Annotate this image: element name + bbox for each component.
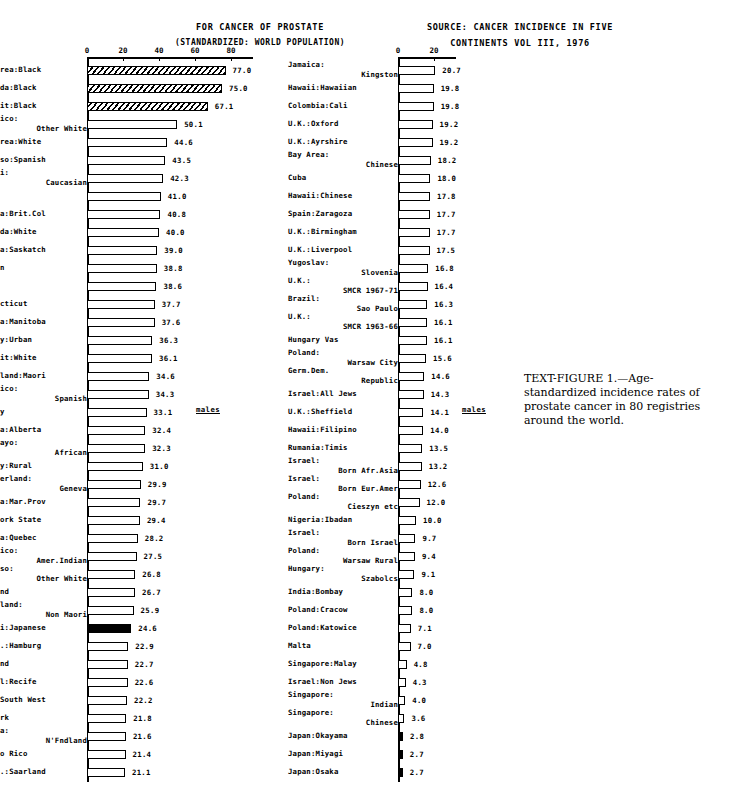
bar-row-label-line2: Kingston: [288, 70, 398, 80]
bar-row-label: Nigeria:Ibadan: [288, 515, 398, 525]
bar: [398, 354, 426, 363]
bar: [398, 408, 423, 417]
bar: [398, 588, 412, 597]
bar-row-label: Poland:Cieszyn etc: [288, 492, 398, 512]
bar-row-label-line1: U.K.:Birmingham: [288, 227, 398, 237]
bar-value-label: 19.8: [441, 84, 460, 94]
bar-row-label-line1: U.K.:Sheffield: [288, 407, 398, 417]
bar-value-label: 2.7: [410, 750, 424, 760]
bar-row-label-line1: Nigeria:Ibadan: [288, 515, 398, 525]
bar-row-label-line1: U.K.:Liverpool: [288, 245, 398, 255]
bar-value-label: 19.2: [440, 120, 459, 130]
bar: [398, 570, 414, 579]
bar-row-label: U.K.:Sheffield: [288, 407, 398, 417]
bar: [398, 642, 411, 651]
bar-row-label: Poland:Cracow: [288, 605, 398, 615]
caption-lead: TEXT-FIGURE: [524, 372, 607, 385]
bar-value-label: 14.0: [430, 426, 449, 436]
bar: [398, 768, 403, 777]
bar-row-label-line2: Chinese: [288, 160, 398, 170]
bar-row-label: Spain:Zaragoza: [288, 209, 398, 219]
bar-row-label-line1: Singapore:: [288, 690, 398, 700]
males-annotation-right: males: [462, 405, 486, 414]
bar: [398, 480, 421, 489]
bar-row-label-line1: Israel:: [288, 474, 398, 484]
bar: [398, 228, 430, 237]
bar-row-label-line1: Japan:Osaka: [288, 767, 398, 777]
bar-row-label-line2: Republic: [288, 376, 398, 386]
bar-row: U.K.:Oxford19.2: [0, 119, 730, 130]
bar-row: Rumania:Timis13.5: [0, 443, 730, 454]
bar-row: Hungary:Szabolcs9.1: [0, 569, 730, 580]
bar-value-label: 17.7: [437, 228, 456, 238]
bar: [398, 624, 411, 633]
bar: [398, 264, 428, 273]
bar-row-label: U.K.:Oxford: [288, 119, 398, 129]
left-axis-tick: [195, 57, 196, 61]
bar-value-label: 7.1: [418, 624, 432, 634]
bar-row-label: Hawaii:Chinese: [288, 191, 398, 201]
bar-row-label-line1: Singapore:Malay: [288, 659, 398, 669]
bar-row-label: U.K.:Ayrshire: [288, 137, 398, 147]
bar-row: Malta7.0: [0, 641, 730, 652]
bar-row-label: Singapore:Malay: [288, 659, 398, 669]
bar-row-label: Poland:Warsaw Rural: [288, 546, 398, 566]
bar-row: Jamaica:Kingston20.7: [0, 65, 730, 76]
bar: [398, 678, 406, 687]
bar-row-label: Poland:Katowice: [288, 623, 398, 633]
bar: [398, 462, 422, 471]
bar-value-label: 13.2: [429, 462, 448, 472]
right-panel-source-line1: SOURCE: CANCER INCIDENCE IN FIVE: [400, 22, 640, 32]
bar-row-label: Singapore:Indian: [288, 690, 398, 710]
bar-row-label: Colombia:Cali: [288, 101, 398, 111]
bar: [398, 138, 433, 147]
figure-caption: TEXT-FIGURE 1.—Age-standardized incidenc…: [524, 372, 720, 428]
bar-row-label-line1: Colombia:Cali: [288, 101, 398, 111]
bar-row: Poland:Warsaw Rural9.4: [0, 551, 730, 562]
bar-value-label: 16.1: [434, 336, 453, 346]
bar: [398, 552, 415, 561]
bar-row-label-line2: Cieszyn etc: [288, 502, 398, 512]
bar-row: U.K.:Liverpool17.5: [0, 245, 730, 256]
bar-row-label-line1: Hawaii:Chinese: [288, 191, 398, 201]
bar: [398, 174, 430, 183]
bar-value-label: 15.6: [433, 354, 452, 364]
left-axis-tick: [231, 57, 232, 61]
bar-row-label-line1: U.K.:: [288, 276, 398, 286]
bar-row-label-line1: India:Bombay: [288, 587, 398, 597]
left-axis-tick: [159, 57, 160, 61]
bar: [398, 498, 420, 507]
right-axis-tick: [434, 57, 435, 61]
bar-row: Israel:Born Israel9.7: [0, 533, 730, 544]
bar: [398, 336, 427, 345]
bar: [398, 318, 427, 327]
bar-value-label: 2.8: [410, 732, 424, 742]
bar-value-label: 8.0: [419, 606, 433, 616]
left-axis-tick-label: 20: [118, 46, 127, 55]
bar-row: Colombia:Cali19.8: [0, 101, 730, 112]
bar-row: Singapore:Malay4.8: [0, 659, 730, 670]
bar-row: U.K.:SMCR 1967-7116.4: [0, 281, 730, 292]
bar: [398, 534, 415, 543]
bar-row-label: Malta: [288, 641, 398, 651]
bar-row-label-line1: Bay Area:: [288, 150, 398, 160]
bar-row-label-line2: Chinese: [288, 718, 398, 728]
bar-row: Israel:Born Eur.Amer12.6: [0, 479, 730, 490]
bar-value-label: 17.5: [437, 246, 456, 256]
bar-row-label: Hawaii:Hawaiian: [288, 83, 398, 93]
bar: [398, 192, 430, 201]
bar-value-label: 7.0: [418, 642, 432, 652]
bar: [398, 444, 422, 453]
bar-value-label: 12.6: [428, 480, 447, 490]
bar: [398, 516, 416, 525]
bar-row-label: Japan:Osaka: [288, 767, 398, 777]
bar: [398, 102, 434, 111]
left-axis-tick-label: 40: [154, 46, 163, 55]
bar-row-label-line1: Cuba: [288, 173, 398, 183]
bar-row-label: U.K.:SMCR 1967-71: [288, 276, 398, 296]
bar-row-label: Jamaica:Kingston: [288, 60, 398, 80]
bar-row: Japan:Osaka2.7: [0, 767, 730, 778]
bar: [398, 732, 403, 741]
bar-row-label-line1: Japan:Okayama: [288, 731, 398, 741]
bar-value-label: 13.5: [429, 444, 448, 454]
